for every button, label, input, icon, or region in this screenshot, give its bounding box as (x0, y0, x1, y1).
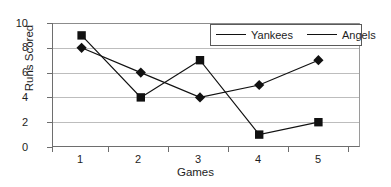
diamond-marker-icon (216, 29, 246, 41)
series-angels (77, 31, 322, 139)
legend: Yankees Angels (210, 24, 362, 46)
diamond-marker (136, 68, 146, 78)
series-line (82, 35, 319, 134)
line-chart: 10 8 6 4 2 0 Runs Scored 1 2 3 4 5 Games… (0, 0, 391, 187)
legend-entry-yankees: Yankees (216, 29, 293, 41)
square-marker (314, 118, 322, 126)
square-marker (255, 130, 263, 138)
diamond-marker (77, 43, 87, 53)
legend-entry-angels: Angels (307, 29, 376, 41)
square-marker (77, 31, 85, 39)
square-marker (196, 56, 204, 64)
square-marker (137, 93, 145, 101)
diamond-marker (254, 80, 264, 90)
series-yankees (77, 43, 324, 103)
legend-label-angels: Angels (342, 29, 376, 41)
square-marker-icon (307, 29, 337, 41)
diamond-marker (313, 55, 323, 65)
legend-label-yankees: Yankees (251, 29, 293, 41)
diamond-marker (195, 92, 205, 102)
